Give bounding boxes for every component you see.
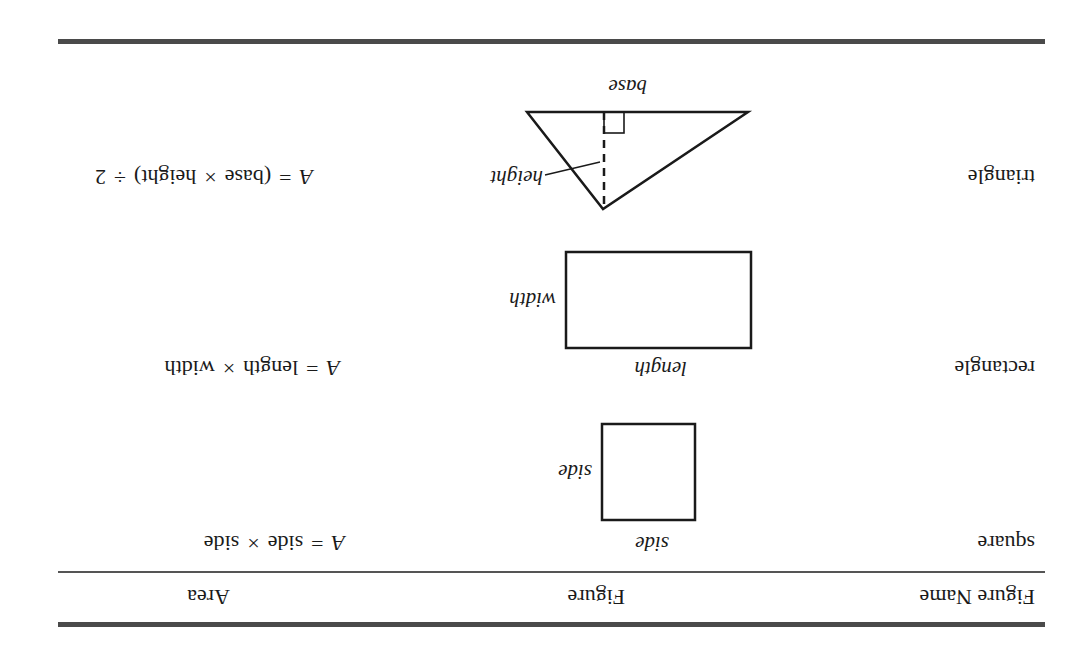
rectangle-figure [566, 252, 751, 348]
figures-layer [0, 0, 1089, 666]
square-figure [602, 424, 695, 520]
right-angle-marker [604, 112, 624, 133]
triangle-figure [527, 112, 748, 209]
height-leader-line [545, 162, 600, 175]
area-formulas-table-page: Figure Name Figure Area square side side… [0, 0, 1089, 666]
